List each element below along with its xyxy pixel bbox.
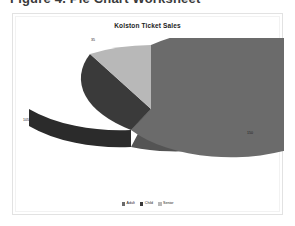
legend-item-senior[interactable]: Senior — [158, 202, 173, 206]
chart-title: Kolston Ticket Sales — [13, 22, 282, 29]
chart-legend: Adult Child Senior — [13, 202, 282, 206]
legend-swatch-senior — [158, 202, 162, 206]
legend-label-adult: Adult — [127, 202, 135, 206]
document-header: Figure 4. Pie Chart Worksheet — [0, 0, 295, 11]
legend-swatch-adult — [122, 202, 126, 206]
legend-label-child: Child — [145, 202, 153, 206]
legend-label-senior: Senior — [163, 202, 173, 206]
legend-item-adult[interactable]: Adult — [122, 202, 135, 206]
chart-panel[interactable]: Kolston Ticket Sales 150 105 35 Adult Ch — [12, 13, 283, 215]
pie-slice-adult — [131, 38, 284, 157]
data-label-senior: 35 — [91, 39, 95, 43]
legend-item-child[interactable]: Child — [140, 202, 153, 206]
pie-chart-graphic — [13, 38, 284, 190]
data-label-adult: 150 — [247, 132, 253, 136]
document-header-text: Figure 4. Pie Chart Worksheet — [10, 0, 201, 6]
legend-swatch-child — [140, 202, 144, 206]
data-label-child: 105 — [23, 119, 29, 123]
pie-plot-area[interactable] — [13, 38, 284, 190]
